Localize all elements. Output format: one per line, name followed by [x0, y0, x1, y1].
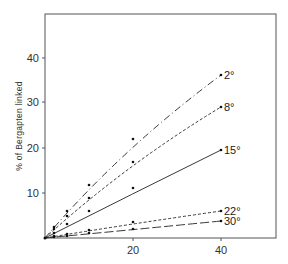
series-line-8deg	[45, 107, 221, 238]
series-label-30deg: 30°	[224, 215, 241, 227]
x-tick-20: 20	[127, 244, 139, 256]
plot-frame	[45, 14, 276, 238]
y-tick-10: 10	[27, 187, 39, 199]
origin-point	[44, 237, 47, 240]
series-points-8deg	[53, 106, 223, 231]
y-tick-30: 30	[27, 96, 39, 108]
series-label-15deg: 15°	[224, 144, 241, 156]
series-points-2deg	[53, 74, 223, 229]
y-tick-20: 20	[27, 142, 39, 154]
series-label-2deg: 2°	[224, 69, 235, 81]
y-tick-40: 40	[27, 52, 39, 64]
x-tick-40: 40	[215, 244, 227, 256]
y-axis-title: % of Bergapten linked	[14, 81, 24, 170]
series-label-8deg: 8°	[224, 101, 235, 113]
chart: 10 20 30 40 20 40 % of Bergapten linked …	[0, 0, 288, 264]
series-line-2deg	[45, 75, 221, 238]
series-points-30deg	[53, 220, 223, 239]
